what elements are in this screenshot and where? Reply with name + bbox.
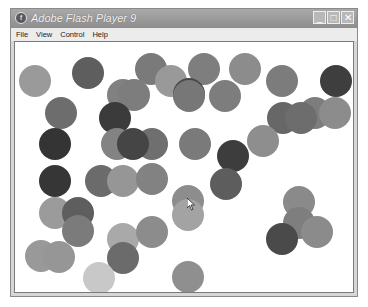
ball xyxy=(45,97,77,129)
ball xyxy=(39,128,71,160)
ball xyxy=(247,125,279,157)
ball xyxy=(39,165,71,197)
ball xyxy=(172,261,204,293)
ball xyxy=(83,262,115,293)
ball xyxy=(179,128,211,160)
menu-file[interactable]: File xyxy=(16,28,28,41)
flash-stage[interactable] xyxy=(14,41,354,293)
menu-view[interactable]: View xyxy=(36,28,52,41)
menu-control[interactable]: Control xyxy=(60,28,84,41)
ball xyxy=(107,165,139,197)
ball xyxy=(217,140,249,172)
ball xyxy=(301,216,333,248)
ball xyxy=(173,80,205,112)
minimize-button[interactable]: _ xyxy=(313,11,326,24)
menu-bar: File View Control Help xyxy=(11,28,357,41)
ball xyxy=(320,65,352,97)
ball xyxy=(136,163,168,195)
mouse-cursor-icon xyxy=(187,197,196,215)
ball xyxy=(266,223,298,255)
ball xyxy=(209,80,241,112)
ball xyxy=(210,168,242,200)
ball xyxy=(319,97,351,129)
ball xyxy=(266,65,298,97)
ball xyxy=(43,241,75,273)
menu-help[interactable]: Help xyxy=(92,28,107,41)
maximize-button[interactable]: □ xyxy=(327,11,340,24)
title-bar[interactable]: f Adobe Flash Player 9 _ □ ✕ xyxy=(11,9,357,28)
ball xyxy=(229,53,261,85)
flash-player-icon: f xyxy=(15,12,27,24)
flash-player-window: f Adobe Flash Player 9 _ □ ✕ File View C… xyxy=(10,8,358,297)
ball xyxy=(136,216,168,248)
ball xyxy=(117,128,149,160)
ball xyxy=(72,57,104,89)
close-button[interactable]: ✕ xyxy=(341,11,354,24)
ball xyxy=(19,65,51,97)
window-title: Adobe Flash Player 9 xyxy=(31,11,136,26)
ball xyxy=(285,102,317,134)
